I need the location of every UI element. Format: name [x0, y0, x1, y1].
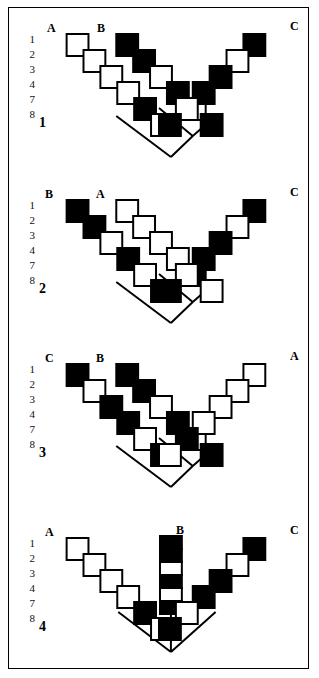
state-box-C-6 — [159, 114, 181, 136]
state-box-B-6 — [201, 444, 223, 466]
state-box-B-3 — [160, 562, 182, 575]
state-box-A-6 — [201, 280, 223, 302]
state-box-C-6 — [159, 618, 181, 640]
panel-3-tree — [9, 336, 308, 500]
cladogram-panel-2: 1 2 3 4 7 8 2 B A C — [9, 172, 308, 336]
state-box-C-6 — [159, 280, 181, 302]
state-box-B-2 — [160, 549, 182, 562]
state-box-A-6 — [159, 444, 181, 466]
panel-3-canvas — [9, 336, 308, 500]
cladogram-panel-4: 1 2 3 4 7 8 4 A B C — [9, 500, 308, 668]
state-chain-A — [67, 538, 173, 640]
panel-4-canvas — [9, 500, 308, 668]
figure-frame: 1 2 3 4 7 8 1 A B C 1 2 3 — [8, 7, 309, 669]
cladogram-panel-1: 1 2 3 4 7 8 1 A B C — [9, 8, 308, 172]
state-box-B-1 — [160, 536, 182, 549]
panel-2-tree — [9, 172, 308, 336]
state-box-B-6 — [201, 114, 223, 136]
panel-1-tree — [9, 8, 308, 172]
panel-1-canvas — [9, 8, 308, 172]
panel-2-canvas — [9, 172, 308, 336]
state-box-B-5 — [160, 588, 182, 601]
panel-4-tree — [9, 500, 308, 668]
state-box-B-4 — [160, 575, 182, 588]
cladogram-panel-3: 1 2 3 4 7 8 3 C B A — [9, 336, 308, 500]
